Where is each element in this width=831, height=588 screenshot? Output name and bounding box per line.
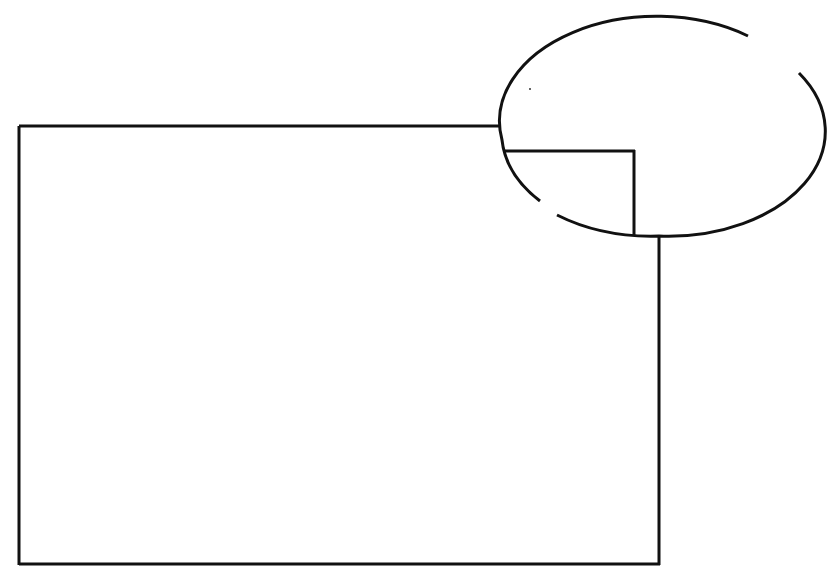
main-rectangle [19, 126, 660, 565]
diagram-canvas [0, 0, 831, 588]
ellipse-arc-lower [557, 73, 825, 236]
ellipse-arc-main [499, 16, 748, 201]
detail-ellipse [499, 16, 825, 236]
ink-dot [529, 88, 531, 90]
